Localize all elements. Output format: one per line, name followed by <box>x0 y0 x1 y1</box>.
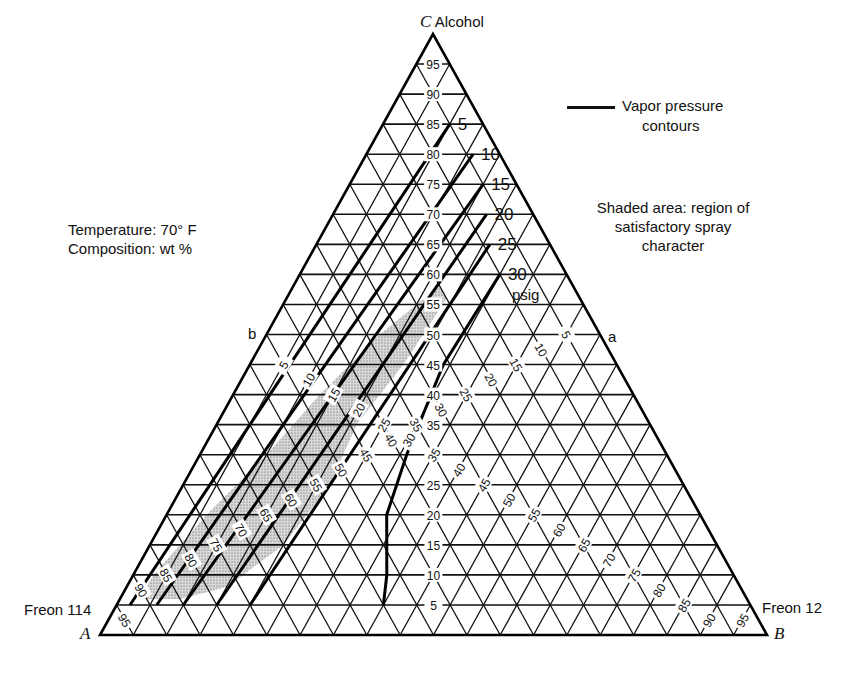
tick-alcohol-40: 40 <box>424 388 442 403</box>
tick-freon114-25: 25 <box>455 383 477 406</box>
tick-freon114-20: 20 <box>480 368 502 391</box>
marker-a: a <box>608 327 616 346</box>
tick-freon114-45: 45 <box>355 443 377 466</box>
svg-text:85: 85 <box>426 118 440 132</box>
tick-freon12-95: 95 <box>731 609 753 632</box>
svg-text:65: 65 <box>426 238 440 252</box>
contour-label-15: 15 <box>491 175 510 194</box>
contour-label-20: 20 <box>495 205 514 224</box>
tick-freon12-90: 90 <box>698 609 720 632</box>
tick-freon12-45: 45 <box>473 473 495 496</box>
tick-alcohol-10: 10 <box>424 568 442 583</box>
svg-text:35: 35 <box>427 419 441 433</box>
composition-label: Composition: wt % <box>68 239 192 258</box>
tick-freon114-15: 15 <box>505 353 527 376</box>
tick-freon12-60: 60 <box>548 519 570 542</box>
ternary-diagram: 51015202530psig 510152025303540455055606… <box>0 0 856 674</box>
tick-freon12-35: 35 <box>423 443 445 466</box>
svg-text:15: 15 <box>427 539 441 553</box>
tick-alcohol-90: 90 <box>424 87 442 102</box>
tick-alcohol-55: 55 <box>424 297 442 312</box>
tick-alcohol-25: 25 <box>424 478 442 493</box>
vertex-c-label: C Alcohol <box>420 12 484 31</box>
legend-shaded-1: Shaded area: region of <box>578 198 768 217</box>
contour-label-30: 30 <box>508 265 527 284</box>
tick-freon12-55: 55 <box>523 504 545 527</box>
tick-freon114-95: 95 <box>114 609 136 632</box>
tick-alcohol-60: 60 <box>424 267 442 282</box>
svg-text:25: 25 <box>427 479 441 493</box>
grid-line-freon12 <box>267 184 517 635</box>
contour-label-5: 5 <box>458 115 467 134</box>
vertex-c-letter: C <box>420 12 431 31</box>
tick-freon12-50: 50 <box>498 488 520 511</box>
legend-vapor-pressure: Vapor pressure <box>622 96 723 115</box>
vertex-a-name: Freon 114 <box>24 600 91 619</box>
tick-alcohol-70: 70 <box>424 207 442 222</box>
svg-text:45: 45 <box>427 359 441 373</box>
vertex-b-name: Freon 12 <box>762 598 822 617</box>
legend-shaded-2: satisfactory spray <box>578 217 768 236</box>
temperature-label: Temperature: 70° F <box>68 220 197 239</box>
svg-text:20: 20 <box>427 509 441 523</box>
svg-text:60: 60 <box>427 268 441 282</box>
svg-text:55: 55 <box>427 298 441 312</box>
legend-line-swatch <box>567 106 615 109</box>
svg-text:70: 70 <box>426 208 440 222</box>
vertex-a-letter: A <box>80 624 90 643</box>
legend-contours: contours <box>642 116 700 135</box>
tick-alcohol-15: 15 <box>424 538 442 553</box>
marker-b: b <box>248 324 256 343</box>
tick-freon114-10: 10 <box>530 338 552 361</box>
tick-alcohol-85: 85 <box>424 117 442 132</box>
legend-shaded-3: character <box>578 236 768 255</box>
svg-text:80: 80 <box>426 148 440 162</box>
svg-text:40: 40 <box>427 389 441 403</box>
vertex-c-name: Alcohol <box>435 13 484 30</box>
tick-alcohol-80: 80 <box>424 147 442 162</box>
svg-text:10: 10 <box>427 569 441 583</box>
tick-freon12-80: 80 <box>648 579 670 602</box>
tick-freon12-65: 65 <box>573 534 595 557</box>
tick-alcohol-5: 5 <box>424 598 442 613</box>
vertex-b-letter: B <box>774 624 784 643</box>
contour-unit-label: psig <box>512 286 540 303</box>
tick-alcohol-45: 45 <box>424 358 442 373</box>
tick-freon12-85: 85 <box>673 594 695 617</box>
svg-text:5: 5 <box>430 599 437 613</box>
tick-freon12-70: 70 <box>598 549 620 572</box>
svg-text:95: 95 <box>426 58 440 72</box>
tick-alcohol-95: 95 <box>424 57 442 72</box>
grid-line-freon12 <box>400 304 583 635</box>
contour-label-25: 25 <box>498 235 517 254</box>
tick-alcohol-65: 65 <box>424 237 442 252</box>
grid-line-freon12 <box>467 365 617 635</box>
tick-freon12-40: 40 <box>448 458 470 481</box>
tick-freon12-75: 75 <box>623 564 645 587</box>
tick-freon12-10: 10 <box>298 368 320 391</box>
tick-alcohol-75: 75 <box>424 177 442 192</box>
tick-alcohol-20: 20 <box>424 508 442 523</box>
tick-freon114-5: 5 <box>555 323 577 346</box>
svg-text:90: 90 <box>426 88 440 102</box>
svg-text:75: 75 <box>426 178 440 192</box>
svg-text:50: 50 <box>427 329 441 343</box>
tick-alcohol-50: 50 <box>424 328 442 343</box>
